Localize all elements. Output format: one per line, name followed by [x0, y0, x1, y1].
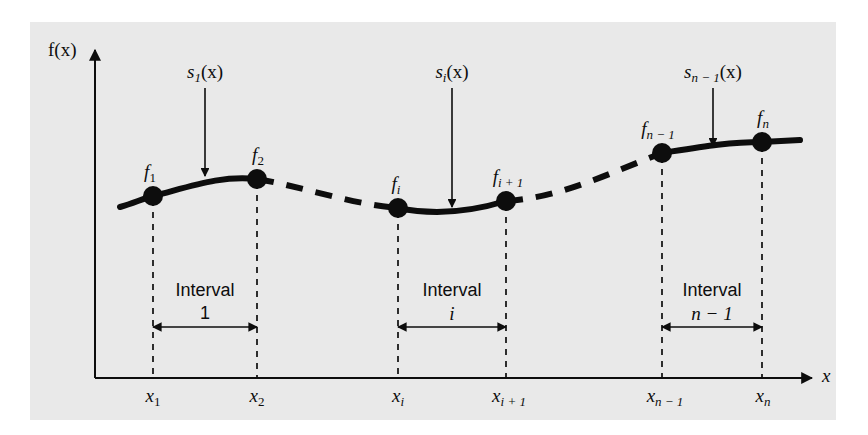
knot-fi: [388, 198, 408, 218]
spline-label-sn-1-arg: (x): [720, 61, 742, 82]
y-axis-label: f(x): [48, 40, 76, 59]
knot-label-fn-sub: n: [762, 116, 769, 131]
spline-curve-sn1: [662, 140, 800, 153]
x-tick-label-x2: x2: [250, 386, 265, 408]
interval-i-word-text: Interval: [422, 280, 481, 300]
interval-label-1-word: Interval: [175, 281, 234, 299]
x-tick-label-xn-sub: n: [764, 394, 771, 409]
interval-1-word-text: Interval: [175, 280, 234, 300]
x-tick-label-xi-plus-1: xi + 1: [492, 386, 526, 408]
interval-label-1-value: 1: [200, 304, 210, 322]
x-axis-label-text: x: [822, 365, 830, 386]
x-tick-label-xn: xn: [756, 386, 771, 408]
spline-callout-arrows: [205, 88, 713, 207]
knot-label-fi-sub: i: [397, 182, 401, 197]
spline-label-sn-1-sub: n − 1: [691, 70, 719, 85]
spline-label-si-arg: (x): [446, 61, 468, 82]
dashed-segment-fi1-fn1: [506, 153, 662, 201]
dashed-segment-f2-fi: [257, 179, 398, 208]
knot-label-fi: fi: [392, 174, 401, 196]
knot-fi1: [496, 191, 516, 211]
x-tick-label-xi-sub: i: [400, 394, 404, 409]
x-tick-label-xn-minus-1: xn − 1: [647, 386, 684, 408]
x-tick-label-xi-plus-1-sub: i + 1: [501, 394, 526, 409]
interval-n-1-value-text: n − 1: [691, 303, 732, 324]
knot-markers: [143, 132, 772, 218]
x-tick-label-xn-minus-1-sub: n − 1: [655, 394, 683, 409]
solid-spline-segments: [120, 140, 800, 212]
knot-label-fn-minus-1: fn − 1: [641, 119, 675, 141]
spline-label-s1: s1(x): [187, 62, 223, 84]
knot-label-fn: fn: [757, 108, 769, 130]
knot-label-f2-sub: 2: [257, 153, 264, 168]
x-tick-label-x1-sub: 1: [154, 394, 161, 409]
knot-fn: [752, 132, 772, 152]
interval-label-i-value: i: [449, 304, 454, 323]
knot-label-f1: f1: [144, 162, 156, 184]
knot-label-fn-minus-1-sub: n − 1: [647, 127, 675, 142]
knot-label-f1-sub: 1: [149, 170, 156, 185]
interval-n-1-word-text: Interval: [682, 280, 741, 300]
spline-curve-s1: [120, 178, 257, 207]
x-tick-label-xi: xi: [392, 386, 404, 408]
dashed-curve-segments: [257, 153, 662, 208]
spline-interpolation-figure: f(x) x s1(x) si(x) sn − 1(x) f1 f2 fi fi…: [0, 0, 868, 435]
spline-label-s1-arg: (x): [201, 61, 223, 82]
knot-label-fi-plus-1-sub: i + 1: [498, 175, 523, 190]
knot-label-f2: f2: [252, 145, 264, 167]
x-tick-label-x2-sub: 2: [258, 394, 265, 409]
knot-label-fi-plus-1: fi + 1: [493, 167, 524, 189]
interval-i-value-text: i: [449, 303, 454, 324]
x-axis-label: x: [822, 366, 830, 385]
interval-label-n-1-word: Interval: [682, 281, 741, 299]
x-tick-label-x1: x1: [146, 386, 161, 408]
interval-label-n-1-value: n − 1: [691, 304, 732, 323]
spline-label-sn-1: sn − 1(x): [684, 62, 742, 84]
interval-1-value-text: 1: [200, 303, 210, 323]
knot-fn1: [652, 143, 672, 163]
spline-label-si: si(x): [435, 62, 468, 84]
knot-f2: [247, 169, 267, 189]
y-axis-label-text: f(x): [48, 39, 76, 60]
interval-label-i-word: Interval: [422, 281, 481, 299]
knot-f1: [143, 186, 163, 206]
